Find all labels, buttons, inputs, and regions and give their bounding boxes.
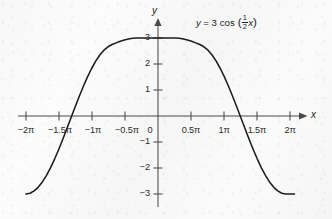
x-tick-label-1-5pi: 1.5π [248,126,267,135]
y-tick-label-neg1: −1 [128,137,150,146]
y-tick-label-2: 2 [132,59,150,68]
fraction-numerator: 1 [242,14,248,22]
x-tick-label-1pi: 1π [218,126,229,135]
y-tick-label-neg3: −3 [128,189,150,198]
x-axis-arrow-icon [299,112,308,119]
x-tick-label-neg1pi: −1π [85,126,102,135]
x-tick-label-2pi: 2π [284,126,295,135]
equation-function: cos [217,17,235,28]
x-axis-label: x [311,110,316,120]
y-axis-label: y [152,6,157,16]
y-axis-arrow-icon [154,18,161,26]
equation-open-paren: ( [235,17,242,29]
x-tick-label-neg2pi: −2π [18,126,35,135]
equation-equals: = [201,17,212,28]
y-tick-label-1: 1 [132,85,150,94]
plot-canvas [0,0,332,219]
y-tick-label-3: 3 [132,33,150,42]
x-tick-label-neg1-5pi: −1.5π [48,126,72,135]
x-tick-label-zero: 0 [147,126,152,135]
y-tick-label-neg2: −2 [128,163,150,172]
graph-figure: y x −2π −1.5π −1π −0.5π 0 0.5π 1π 1.5π 2… [0,0,332,219]
equation-fraction-one-half: 1 2 [242,14,248,31]
equation-annotation: y = 3 cos ( 1 2 x ) [196,14,257,31]
x-tick-label-neg0-5pi: −0.5π [115,126,139,135]
x-tick-label-0-5pi: 0.5π [182,126,201,135]
fraction-denominator: 2 [242,22,248,31]
equation-close-paren: ) [253,17,257,29]
